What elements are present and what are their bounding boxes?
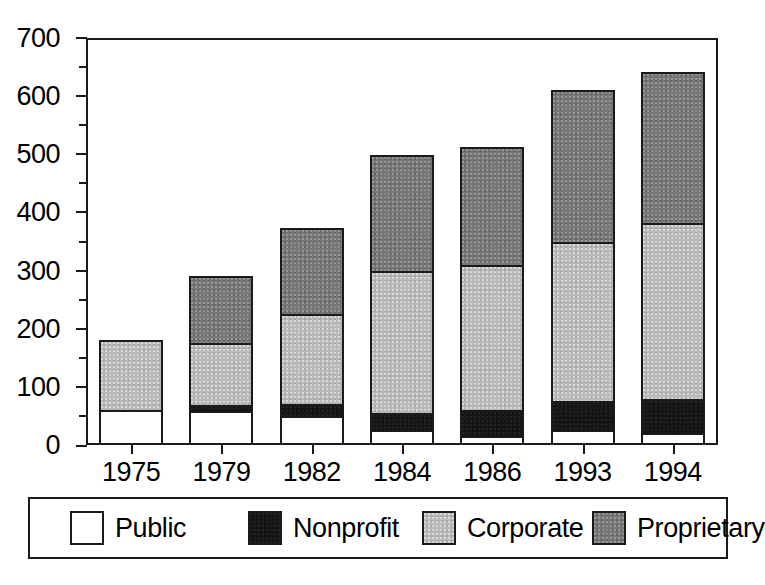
y-axis-tick-label: 0: [45, 432, 60, 459]
y-axis-tick-label: 300: [16, 257, 60, 284]
bar-segment-corporate[interactable]: [99, 340, 163, 410]
y-axis-tick-label: 400: [16, 199, 60, 226]
chart-legend: PublicNonprofitCorporateProprietary: [28, 497, 728, 559]
x-axis-tick: [312, 445, 314, 454]
bar-segment-public[interactable]: [460, 436, 524, 445]
bar-segment-proprietary[interactable]: [370, 155, 434, 270]
bar-segment-proprietary[interactable]: [551, 90, 615, 241]
darkgray-swatch-icon: [592, 511, 626, 545]
bar-1993[interactable]: [551, 90, 615, 445]
x-axis-tick-label-1982: 1982: [283, 457, 341, 488]
bar-segment-public[interactable]: [641, 433, 705, 445]
x-axis-tick: [402, 445, 404, 454]
bar-segment-corporate[interactable]: [551, 242, 615, 402]
bar-segment-proprietary[interactable]: [641, 72, 705, 223]
lightgray-swatch-icon: [422, 511, 456, 545]
bar-1994[interactable]: [641, 72, 705, 445]
bar-segment-corporate[interactable]: [189, 343, 253, 405]
bar-segment-proprietary[interactable]: [460, 147, 524, 264]
bar-segment-public[interactable]: [370, 430, 434, 445]
bars-layer: [86, 38, 718, 445]
legend-label: Proprietary: [637, 513, 765, 544]
bar-segment-public[interactable]: [551, 430, 615, 445]
x-axis-tick-label-1993: 1993: [554, 457, 612, 488]
white-swatch-icon: [70, 511, 104, 545]
bar-segment-nonprofit[interactable]: [460, 410, 524, 436]
bar-segment-public[interactable]: [280, 416, 344, 445]
bar-segment-corporate[interactable]: [460, 265, 524, 410]
x-axis-tick-label-1994: 1994: [644, 457, 702, 488]
black-swatch-icon: [248, 511, 282, 545]
x-axis-tick: [221, 445, 223, 454]
legend-label: Public: [115, 513, 186, 544]
bar-segment-nonprofit[interactable]: [551, 401, 615, 430]
x-axis-tick-label-1979: 1979: [192, 457, 250, 488]
y-axis-tick-label: 700: [16, 25, 60, 52]
bar-1984[interactable]: [370, 155, 434, 445]
bar-segment-nonprofit[interactable]: [370, 413, 434, 430]
bar-1979[interactable]: [189, 276, 253, 445]
bar-1986[interactable]: [460, 147, 524, 445]
bar-segment-corporate[interactable]: [370, 271, 434, 413]
bar-segment-public[interactable]: [189, 411, 253, 445]
bar-segment-public[interactable]: [99, 410, 163, 445]
bar-1982[interactable]: [280, 228, 344, 445]
legend-item-public[interactable]: Public: [70, 511, 186, 545]
bar-segment-proprietary[interactable]: [280, 228, 344, 314]
bar-segment-nonprofit[interactable]: [641, 399, 705, 434]
x-axis-tick: [673, 445, 675, 454]
bar-segment-proprietary[interactable]: [189, 276, 253, 343]
legend-label: Corporate: [467, 513, 583, 544]
x-axis-tick: [492, 445, 494, 454]
x-axis-tick-label-1984: 1984: [373, 457, 431, 488]
legend-item-corporate[interactable]: Corporate: [422, 511, 583, 545]
bar-segment-corporate[interactable]: [280, 314, 344, 404]
x-axis-tick: [583, 445, 585, 454]
bar-1975[interactable]: [99, 340, 163, 445]
bar-segment-corporate[interactable]: [641, 223, 705, 399]
y-axis-tick-label: 100: [16, 373, 60, 400]
x-axis-tick: [131, 445, 133, 454]
x-axis: 1975197919821984198619931994: [86, 445, 718, 505]
y-axis-tick-label: 500: [16, 141, 60, 168]
x-axis-tick-label-1975: 1975: [102, 457, 160, 488]
x-axis-tick-label-1986: 1986: [463, 457, 521, 488]
y-axis-tick-label: 600: [16, 83, 60, 110]
bar-segment-nonprofit[interactable]: [280, 404, 344, 416]
legend-item-proprietary[interactable]: Proprietary: [592, 511, 765, 545]
bar-segment-nonprofit[interactable]: [189, 405, 253, 411]
legend-item-nonprofit[interactable]: Nonprofit: [248, 511, 399, 545]
y-axis-tick-label: 200: [16, 315, 60, 342]
legend-label: Nonprofit: [293, 513, 399, 544]
y-axis: 0100200300400500600700: [0, 0, 80, 470]
